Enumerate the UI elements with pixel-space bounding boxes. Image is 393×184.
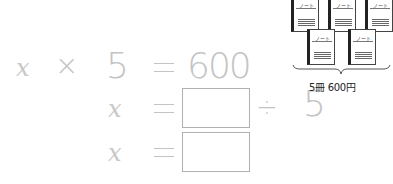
result-value: 600	[187, 48, 250, 84]
answer-box-answer[interactable]	[182, 132, 250, 172]
variable-x: x	[108, 141, 122, 165]
variable-x: x	[108, 97, 122, 121]
notebook-icon: ノート	[365, 0, 393, 32]
divide-sign: ÷	[256, 94, 278, 120]
brace-icon	[292, 64, 391, 76]
variable-x: x	[16, 56, 30, 80]
notebook-label: ノート	[353, 35, 373, 42]
notebook-icon: ノート	[328, 0, 356, 32]
notebook-label: ノート	[370, 2, 390, 9]
notebook-icon: ノート	[348, 29, 376, 65]
multiplier-value: 5	[106, 48, 129, 84]
notebook-icon: ノート	[307, 29, 335, 65]
notebook-icon: ノート	[291, 0, 319, 32]
multiply-sign: ×	[55, 52, 78, 80]
answer-box-dividend[interactable]	[182, 88, 250, 128]
notebook-label: ノート	[333, 2, 353, 9]
notebook-label: ノート	[296, 2, 316, 9]
price-caption: 5冊 600円	[309, 79, 356, 94]
notebook-label: ノート	[312, 35, 332, 42]
